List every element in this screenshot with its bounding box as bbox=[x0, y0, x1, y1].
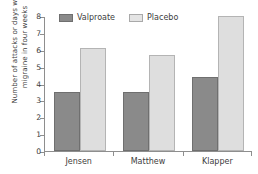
y-axis-tick-label: 7 bbox=[36, 29, 41, 38]
migraine-bar-chart: Number of attacks or days with migraine … bbox=[0, 0, 258, 174]
y-axis-tick-label: 2 bbox=[36, 113, 41, 122]
y-axis-tick-label: 3 bbox=[36, 96, 41, 105]
x-axis-tick-mark bbox=[183, 152, 184, 156]
bar-klapper-valproate bbox=[192, 77, 218, 151]
y-axis-tick-label: 4 bbox=[36, 80, 41, 89]
y-axis-tick-label: 5 bbox=[36, 63, 41, 72]
x-axis-label-matthew: Matthew bbox=[131, 157, 166, 167]
plot-area: 012345678 bbox=[44, 17, 252, 152]
y-axis-title-line-1: Number of attacks or days with bbox=[10, 0, 20, 104]
y-axis-tick-label: 6 bbox=[36, 46, 41, 55]
y-axis-tick-label: 1 bbox=[36, 130, 41, 139]
bar-klapper-placebo bbox=[218, 16, 244, 151]
x-axis-label-jensen: Jensen bbox=[65, 157, 92, 167]
bar-jensen-valproate bbox=[54, 92, 80, 151]
y-axis-title-line-2: migraine in four weeks bbox=[20, 6, 30, 88]
bars-layer bbox=[45, 17, 252, 151]
x-axis-label-klapper: Klapper bbox=[202, 157, 233, 167]
y-axis-tick-label: 0 bbox=[36, 147, 41, 156]
x-axis-line bbox=[44, 151, 252, 152]
bar-jensen-placebo bbox=[80, 48, 106, 151]
y-axis-title: Number of attacks or days with migraine … bbox=[6, 0, 34, 117]
x-axis-tick-mark bbox=[113, 152, 114, 156]
bar-matthew-placebo bbox=[149, 55, 175, 151]
y-axis-tick-label: 8 bbox=[36, 12, 41, 21]
x-axis-tick-mark bbox=[251, 152, 252, 156]
x-axis-tick-mark bbox=[44, 152, 45, 156]
bar-matthew-valproate bbox=[123, 92, 149, 151]
